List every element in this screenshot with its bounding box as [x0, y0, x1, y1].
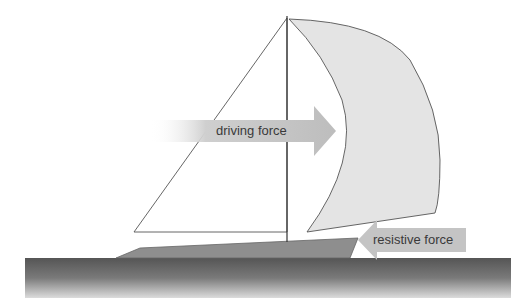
sailboat-diagram [0, 0, 511, 298]
water [25, 258, 511, 298]
resistive-force-label: resistive force [373, 232, 453, 247]
boat-hull [116, 238, 358, 258]
driving-force-label: driving force [216, 123, 287, 138]
